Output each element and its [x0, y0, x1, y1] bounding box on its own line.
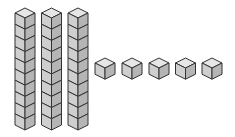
tens-rod	[68, 8, 88, 130]
tens-rod	[15, 8, 35, 130]
base-ten-blocks-diagram: Base-ten blocks	[0, 0, 235, 137]
unit-cube	[149, 58, 169, 79]
tens-rod	[42, 8, 62, 130]
unit-cube	[176, 58, 196, 79]
unit-cube	[122, 58, 142, 79]
unit-cube	[202, 58, 222, 79]
unit-cube	[95, 58, 115, 79]
blocks-canvas	[0, 0, 235, 137]
